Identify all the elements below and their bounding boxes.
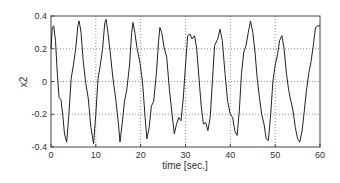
x-tick-label: 50: [270, 150, 280, 160]
y-tick-label: -0.4: [31, 142, 47, 152]
y-tick-label: 0.4: [34, 11, 47, 21]
y-tick-label: 0: [42, 77, 47, 87]
x-tick-label: 30: [180, 150, 190, 160]
x-axis-ticks: 0102030405060: [48, 144, 325, 160]
x-tick-label: 20: [136, 150, 146, 160]
line-chart: 0102030405060 -0.4-0.200.20.4 time [sec.…: [0, 0, 340, 183]
x-tick-label: 10: [91, 150, 101, 160]
x-axis-label: time [sec.]: [162, 160, 208, 171]
y-tick-label: -0.2: [31, 109, 47, 119]
x-tick-label: 60: [315, 150, 325, 160]
y-axis-label: x2: [18, 76, 29, 87]
x-tick-label: 40: [225, 150, 235, 160]
y-tick-label: 0.2: [34, 44, 47, 54]
x-tick-label: 0: [48, 150, 53, 160]
